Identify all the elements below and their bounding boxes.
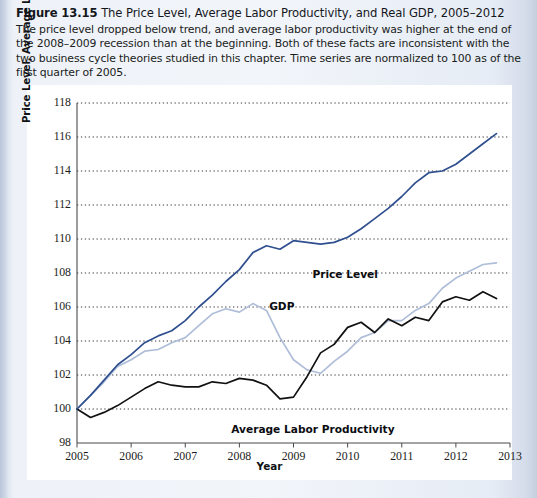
x-tick-label: 2010 bbox=[328, 449, 368, 464]
series-label-labor-productivity: Average Labor Productivity bbox=[231, 423, 394, 435]
figure-title-text: The Price Level, Average Labor Productiv… bbox=[101, 6, 505, 20]
y-tick-label: 102 bbox=[45, 367, 71, 382]
y-tick-label: 118 bbox=[45, 95, 71, 110]
x-tick-label: 2008 bbox=[219, 449, 259, 464]
line-chart bbox=[27, 85, 512, 480]
y-tick-label: 106 bbox=[45, 299, 71, 314]
gridlines bbox=[77, 103, 510, 409]
series-label-gdp: GDP bbox=[269, 300, 294, 312]
y-tick-label: 98 bbox=[45, 435, 71, 450]
y-tick-label: 114 bbox=[45, 163, 71, 178]
figure-description: The price level dropped below trend, and… bbox=[16, 23, 528, 81]
y-tick-label: 108 bbox=[45, 265, 71, 280]
y-tick-label: 104 bbox=[45, 333, 71, 348]
x-tick-label: 2012 bbox=[436, 449, 476, 464]
y-tick-label: 110 bbox=[45, 231, 71, 246]
plot-panel: Price Level, Average Labor Productivity,… bbox=[27, 85, 512, 480]
x-tick-label: 2007 bbox=[165, 449, 205, 464]
y-axis-title: Price Level, Average Labor Productivity,… bbox=[21, 0, 32, 123]
x-tick-label: 2013 bbox=[490, 449, 530, 464]
x-tick-label: 2006 bbox=[111, 449, 151, 464]
series-label-price-level: Price Level bbox=[312, 268, 377, 280]
x-tick-label: 2009 bbox=[274, 449, 314, 464]
x-tick-label: 2005 bbox=[57, 449, 97, 464]
x-tick-label: 2011 bbox=[382, 449, 422, 464]
y-tick-label: 112 bbox=[45, 197, 71, 212]
y-tick-label: 116 bbox=[45, 129, 71, 144]
figure-frame: Figure 13.15 The Price Level, Average La… bbox=[0, 0, 537, 498]
figure-caption: Figure 13.15 The Price Level, Average La… bbox=[16, 6, 528, 81]
y-tick-label: 100 bbox=[45, 401, 71, 416]
figure-title: Figure 13.15 The Price Level, Average La… bbox=[16, 6, 528, 21]
